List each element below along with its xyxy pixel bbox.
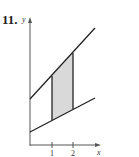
tick-label-1: 1 — [50, 149, 54, 157]
y-axis-label: y — [21, 15, 26, 24]
graph: y x 1 2 — [0, 0, 139, 157]
x-axis-label: x — [96, 148, 101, 157]
tick-label-2: 2 — [71, 149, 75, 157]
y-axis-arrow-icon — [28, 17, 32, 23]
x-axis-arrow-icon — [95, 143, 101, 147]
